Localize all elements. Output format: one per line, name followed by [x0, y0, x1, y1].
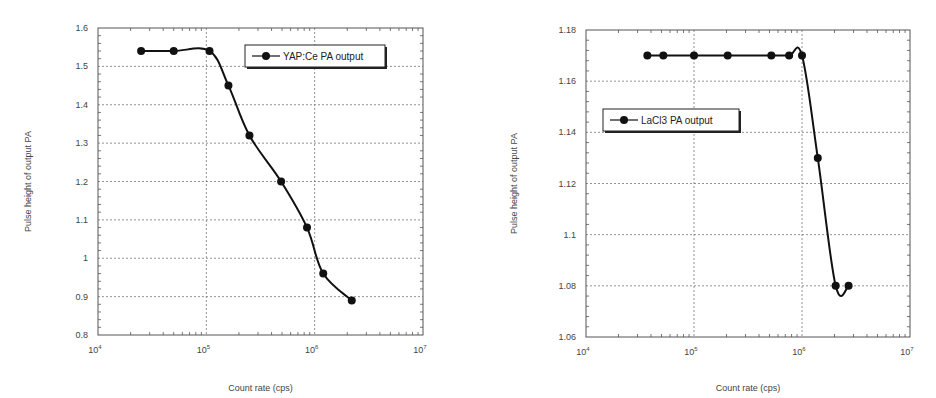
y-tick-label: 1.18: [558, 25, 576, 35]
y-tick-label: 1.12: [558, 179, 576, 189]
data-point-marker: [303, 224, 311, 232]
legend-marker-icon: [262, 52, 270, 60]
y-tick-label: 1.2: [75, 177, 88, 187]
y-tick-label: 1.06: [558, 332, 576, 342]
data-point-marker: [814, 154, 822, 162]
lacl3-chart: 1.061.081.11.121.141.161.18104105106107C…: [509, 25, 914, 393]
x-axis-label: Count rate (cps): [228, 383, 293, 393]
y-tick-label: 1.1: [75, 215, 88, 225]
data-point-marker: [245, 131, 253, 139]
y-tick-label: 1.3: [75, 138, 88, 148]
x-tick-label: 104: [88, 344, 102, 355]
legend: LaCl3 PA output: [603, 109, 741, 133]
x-axis-label: Count rate (cps): [716, 383, 781, 393]
x-tick-label: 104: [576, 346, 590, 357]
x-tick-label: 106: [792, 346, 806, 357]
y-tick-label: 1.1: [563, 230, 576, 240]
data-point-marker: [643, 52, 651, 60]
data-point-marker: [690, 52, 698, 60]
x-tick-label: 106: [305, 344, 319, 355]
legend-label: YAP:Ce PA output: [283, 51, 363, 62]
y-tick-label: 0.8: [75, 330, 88, 340]
y-axis-label: Pulse height of output PA: [23, 131, 33, 232]
series-line: [647, 47, 848, 296]
yapce-chart: 0.80.911.11.21.31.41.51.6104105106107Cou…: [23, 23, 427, 393]
data-point-marker: [767, 52, 775, 60]
y-tick-label: 1.14: [558, 127, 576, 137]
data-point-marker: [659, 52, 667, 60]
figure-canvas: 0.80.911.11.21.31.41.51.6104105106107Cou…: [0, 0, 936, 398]
data-point-marker: [798, 52, 806, 60]
data-point-marker: [137, 47, 145, 55]
legend-label: LaCl3 PA output: [641, 115, 713, 126]
legend: YAP:Ce PA output: [245, 45, 387, 69]
y-tick-label: 1.5: [75, 61, 88, 71]
grid: [586, 30, 910, 337]
data-point-marker: [224, 82, 232, 90]
y-axis-label: Pulse height of output PA: [509, 133, 519, 234]
data-point-marker: [170, 47, 178, 55]
data-point-marker: [348, 296, 356, 304]
x-tick-label: 107: [900, 346, 914, 357]
y-tick-label: 1: [83, 253, 88, 263]
grid: [98, 28, 423, 335]
data-point-marker: [832, 282, 840, 290]
x-tick-label: 107: [413, 344, 427, 355]
x-tick-label: 105: [684, 346, 698, 357]
data-point-marker: [845, 282, 853, 290]
y-tick-label: 1.4: [75, 100, 88, 110]
y-tick-label: 0.9: [75, 292, 88, 302]
x-tick-label: 105: [197, 344, 211, 355]
data-point-marker: [319, 270, 327, 278]
data-point-marker: [277, 178, 285, 186]
legend-marker-icon: [620, 116, 628, 124]
y-tick-label: 1.16: [558, 76, 576, 86]
data-point-marker: [206, 47, 214, 55]
y-tick-label: 1.6: [75, 23, 88, 33]
data-point-marker: [724, 52, 732, 60]
data-point-marker: [785, 52, 793, 60]
y-tick-label: 1.08: [558, 281, 576, 291]
series-line: [141, 48, 352, 300]
